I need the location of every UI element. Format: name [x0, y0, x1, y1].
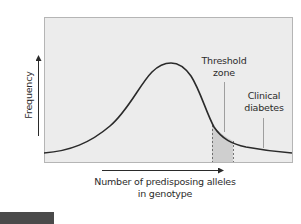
y-axis-label: Frequency	[23, 71, 35, 118]
clinical-label-line2: diabetes	[236, 102, 292, 114]
x-axis-label: Number of predisposing alleles in genoty…	[70, 176, 260, 200]
threshold-label-line1: Threshold	[196, 55, 252, 67]
clinical-diabetes-label: Clinical diabetes	[236, 90, 292, 114]
clinical-label-line1: Clinical	[236, 90, 292, 102]
x-axis-label-line2: in genotype	[70, 188, 260, 200]
threshold-zone-label: Threshold zone	[196, 55, 252, 79]
liability-threshold-figure: Threshold zone Clinical diabetes Frequen…	[0, 0, 301, 224]
footer-dark-block	[0, 212, 54, 224]
threshold-label-line2: zone	[196, 67, 252, 79]
x-axis-label-line1: Number of predisposing alleles	[70, 176, 260, 188]
